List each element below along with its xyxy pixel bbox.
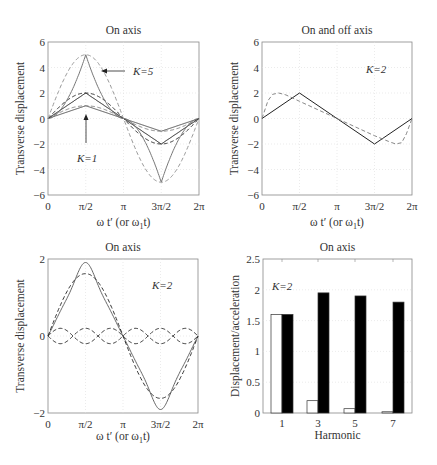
y-tick-label: 0.5 <box>246 376 260 388</box>
y-tick-label: −4 <box>33 164 45 176</box>
annotation-k2: K=2 <box>151 279 173 291</box>
annotation-k2: K=2 <box>271 280 293 292</box>
x-tick-label: 1 <box>279 417 285 429</box>
bar-displacement <box>271 314 282 413</box>
x-axis-label: ω t′ (or ω1t) <box>97 216 151 231</box>
x-tick-label: 0 <box>259 200 265 212</box>
y-tick-label: 4 <box>254 62 260 74</box>
y-tick-label: 0 <box>255 407 261 419</box>
x-tick-label: 3 <box>315 417 321 429</box>
bar-acceleration <box>393 302 404 413</box>
bar-acceleration <box>318 293 329 413</box>
x-tick-label: 2π <box>192 418 204 430</box>
y-tick-label: 1.5 <box>246 315 260 327</box>
y-tick-label: −6 <box>33 189 45 201</box>
y-axis-label: Transverse displacement <box>14 61 27 175</box>
annotation-k2: K=2 <box>365 63 387 75</box>
y-tick-label: 0 <box>40 330 46 342</box>
figure: −6−4−20246On axisTransverse displacement… <box>0 0 437 465</box>
x-tick-label: π <box>334 200 340 212</box>
bar-displacement <box>307 401 318 413</box>
panel-bottom-right-bar-chart: 00.511.522.5On axisDisplacement/accelera… <box>229 241 412 441</box>
x-tick-label: π <box>120 418 126 430</box>
y-tick-label: −2 <box>33 138 45 150</box>
x-tick-label: 5 <box>352 417 358 429</box>
panel-top-left-on-axis: −6−4−20246On axisTransverse displacement… <box>14 24 205 231</box>
y-tick-label: 2 <box>255 284 261 296</box>
y-tick-label: −6 <box>247 189 259 201</box>
x-tick-label: 0 <box>45 200 51 212</box>
bar-acceleration <box>355 296 366 413</box>
y-tick-label: 2 <box>40 87 46 99</box>
panel-title: On axis <box>105 241 141 253</box>
y-tick-label: 0 <box>254 113 260 125</box>
x-axis-label: Harmonic <box>315 429 361 441</box>
bar-displacement <box>382 412 393 413</box>
y-tick-label: 4 <box>40 62 46 74</box>
panel-bottom-left-harmonics: −202On axisTransverse displacement0π/2π3… <box>14 241 204 445</box>
y-tick-label: 2.5 <box>246 253 260 265</box>
x-tick-label: 0 <box>45 418 51 430</box>
y-tick-label: 6 <box>254 36 260 48</box>
x-axis-label: ω t′ (or ω1t) <box>96 430 150 445</box>
x-tick-label: π <box>121 200 127 212</box>
y-axis-label: Transverse displacement <box>228 61 241 175</box>
y-tick-label: 0 <box>40 113 46 125</box>
y-tick-label: 2 <box>40 253 46 265</box>
x-axis-label: ω t′ (or ω1t) <box>310 216 364 231</box>
y-tick-label: 6 <box>40 36 46 48</box>
x-tick-label: π/2 <box>78 418 92 430</box>
x-tick-label: 3π/2 <box>151 418 171 430</box>
y-tick-label: 1 <box>255 345 261 357</box>
y-axis-label: Transverse displacement <box>14 278 27 392</box>
x-tick-label: 7 <box>390 417 396 429</box>
x-tick-label: 3π/2 <box>151 200 171 212</box>
x-tick-label: 2π <box>406 200 418 212</box>
y-axis-label: Displacement/acceleration <box>229 275 242 397</box>
x-tick-label: 3π/2 <box>365 200 385 212</box>
y-tick-label: −4 <box>247 164 259 176</box>
panel-title: On axis <box>320 241 356 253</box>
x-tick-label: π/2 <box>292 200 306 212</box>
panel-top-right-on-off-axis: −6−4−20246On and off axisTransverse disp… <box>228 24 418 231</box>
y-tick-label: −2 <box>247 138 259 150</box>
annotation-k1: K=1 <box>76 152 97 164</box>
x-tick-label: 2π <box>193 200 205 212</box>
panel-title: On axis <box>106 24 142 36</box>
panel-title: On and off axis <box>301 24 373 36</box>
bar-acceleration <box>282 314 293 413</box>
bar-displacement <box>344 409 355 413</box>
x-tick-label: π/2 <box>79 200 93 212</box>
y-tick-label: 2 <box>254 87 260 99</box>
y-tick-label: −2 <box>33 407 45 419</box>
annotation-k5: K=5 <box>132 65 154 77</box>
